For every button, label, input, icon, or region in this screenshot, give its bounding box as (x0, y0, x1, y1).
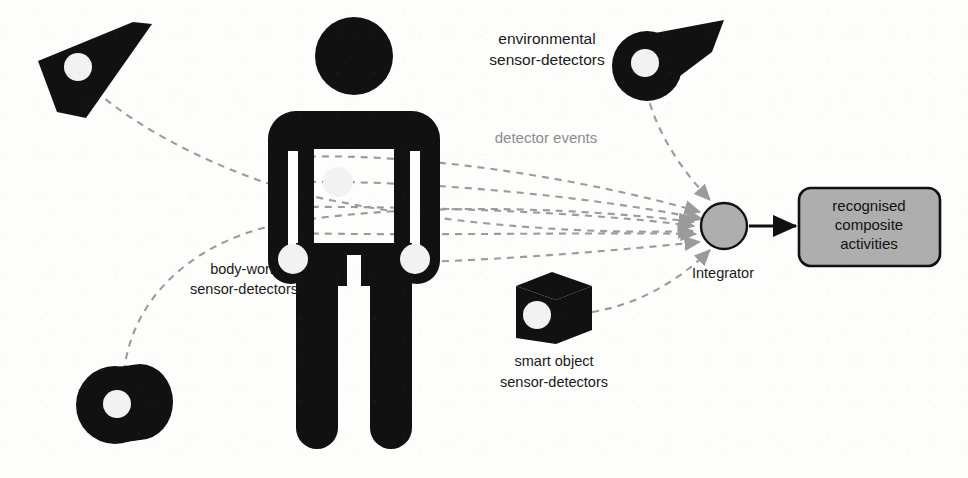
env-sensor-detector-upper-right[interactable] (612, 20, 724, 101)
label-environmental-line2: sensor-detectors (489, 51, 605, 68)
env-sensor-detector-upper-left[interactable] (38, 22, 152, 118)
recognised-composite-activities-box[interactable]: recognised composite activities (799, 188, 940, 266)
body-worn-sensor-chest[interactable] (323, 167, 353, 197)
output-box-line2: composite (835, 216, 903, 233)
figure-right-arm-gap (410, 151, 420, 256)
detector-lens-icon (103, 390, 131, 418)
edge-body-worn-1-to-integrator (296, 156, 700, 212)
detector-wedge-shape (38, 22, 152, 118)
cube-lens-icon (523, 301, 551, 329)
label-detector-events: detector events (495, 129, 598, 146)
figure-left-arm-gap (288, 151, 298, 256)
figure-leg-gap (347, 255, 361, 430)
architecture-diagram: recognised composite activities environm… (0, 0, 968, 478)
edge-body-worn-2-to-integrator (296, 182, 702, 219)
label-smart-object-line2: sensor-detectors (500, 374, 608, 390)
edge-smart-object-to-integrator (592, 250, 710, 312)
detector-lens-icon (64, 53, 92, 81)
label-body-worn-line2: sensor-detectors (190, 281, 298, 297)
body-worn-sensor-right-wrist[interactable] (400, 244, 430, 274)
edge-body-worn-4-to-integrator (286, 233, 696, 234)
label-environmental-line1: environmental (498, 30, 595, 47)
env-sensor-detector-lower-left[interactable] (76, 364, 173, 444)
figure-head (315, 17, 393, 95)
detector-lens-icon (631, 49, 659, 77)
output-box-line1: recognised (832, 197, 905, 214)
label-body-worn-line1: body-worn (210, 261, 278, 277)
edge-env-left-to-integrator (86, 82, 693, 232)
label-smart-object-line1: smart object (515, 353, 594, 369)
diagram-canvas: recognised composite activities environm… (0, 0, 968, 478)
integrator-node[interactable] (701, 203, 747, 249)
body-worn-sensor-left-wrist[interactable] (278, 244, 308, 274)
output-box-line3: activities (840, 235, 898, 252)
label-integrator: Integrator (692, 265, 754, 281)
integrator-circle (701, 203, 747, 249)
smart-object-cube[interactable] (516, 272, 592, 344)
